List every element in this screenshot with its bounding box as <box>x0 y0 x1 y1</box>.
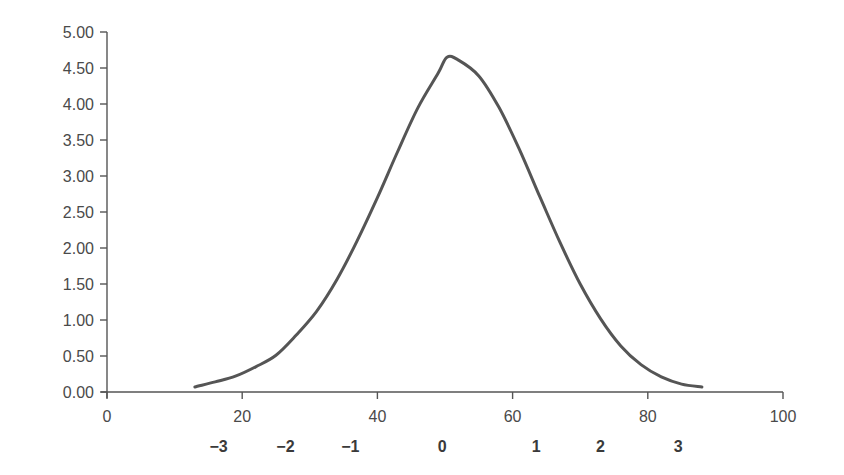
z-score-label: 3 <box>674 438 683 455</box>
y-axis: 0.000.501.001.502.002.503.003.504.004.50… <box>63 24 107 401</box>
normal-distribution-chart: 0.000.501.001.502.002.503.003.504.004.50… <box>0 0 844 475</box>
y-tick-label: 1.00 <box>63 312 94 329</box>
z-score-label: 1 <box>532 438 541 455</box>
y-tick-label: 4.00 <box>63 96 94 113</box>
y-tick-label: 2.50 <box>63 204 94 221</box>
z-score-label: −2 <box>276 438 294 455</box>
x-tick-label: 0 <box>103 408 112 425</box>
z-score-label: −3 <box>209 438 227 455</box>
y-tick-label: 5.00 <box>63 24 94 41</box>
x-tick-label: 80 <box>639 408 657 425</box>
z-score-label: −1 <box>341 438 359 455</box>
y-tick-label: 3.00 <box>63 168 94 185</box>
x-tick-label: 20 <box>233 408 251 425</box>
z-score-label: 2 <box>596 438 605 455</box>
y-tick-label: 3.50 <box>63 132 94 149</box>
x-tick-label: 40 <box>369 408 387 425</box>
x-axis: 020406080100 <box>101 392 796 425</box>
y-tick-label: 1.50 <box>63 276 94 293</box>
y-tick-label: 0.50 <box>63 348 94 365</box>
x-tick-label: 100 <box>770 408 797 425</box>
y-tick-label: 4.50 <box>63 60 94 77</box>
y-tick-label: 0.00 <box>63 384 94 401</box>
x-tick-label: 60 <box>504 408 522 425</box>
y-tick-label: 2.00 <box>63 240 94 257</box>
normal-curve-line <box>195 56 702 387</box>
z-score-axis: −3−2−10123 <box>209 438 682 455</box>
z-score-label: 0 <box>438 438 447 455</box>
